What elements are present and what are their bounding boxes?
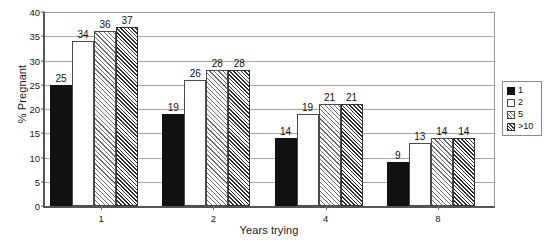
legend-label-series-5: 5 xyxy=(518,110,523,119)
bar-value-label: 14 xyxy=(280,126,291,137)
bar-series->10-category-8[interactable]: 14 xyxy=(453,138,475,206)
bar-series->10-category-2[interactable]: 28 xyxy=(228,70,250,206)
x-axis-tick-mark xyxy=(213,206,214,210)
y-axis-tick-mark xyxy=(41,133,45,134)
bar-series->10-category-4[interactable]: 21 xyxy=(341,104,363,206)
bar-series-5-category-2[interactable]: 28 xyxy=(206,70,228,206)
bar-value-label: 14 xyxy=(458,126,469,137)
bar-value-label: 37 xyxy=(122,15,133,26)
bar-value-label: 14 xyxy=(436,126,447,137)
bar-value-label: 21 xyxy=(346,92,357,103)
legend-swatch-icon-series-1 xyxy=(507,87,515,95)
bar-series-1-category-2[interactable]: 19 xyxy=(162,114,184,206)
bar-series-2-category-4[interactable]: 19 xyxy=(297,114,319,206)
legend-label-series-2: 2 xyxy=(518,98,523,107)
bar-value-label: 28 xyxy=(212,58,223,69)
x-axis-tick-mark xyxy=(101,206,102,210)
bar-value-label: 28 xyxy=(234,58,245,69)
legend-label-series-gt10: >10 xyxy=(518,122,533,131)
bar-series->10-category-1[interactable]: 37 xyxy=(116,27,138,206)
x-axis-tick-label: 4 xyxy=(323,213,328,224)
bar-value-label: 21 xyxy=(324,92,335,103)
legend-swatch-icon-series-5 xyxy=(507,111,515,119)
y-axis-tick-label: 35 xyxy=(10,31,40,42)
y-axis-tick-label: 25 xyxy=(10,79,40,90)
x-axis-title: Years trying xyxy=(43,224,495,236)
y-axis-tick-label: 10 xyxy=(10,152,40,163)
y-axis-tick-mark xyxy=(41,12,45,13)
y-axis-tick-label: 5 xyxy=(10,176,40,187)
legend-swatch-icon-series-2 xyxy=(507,99,515,107)
bar-value-label: 19 xyxy=(302,102,313,113)
bar-value-label: 25 xyxy=(56,73,67,84)
y-axis-tick-label: 20 xyxy=(10,104,40,115)
y-axis-tick-mark xyxy=(41,84,45,85)
bar-series-1-category-1[interactable]: 25 xyxy=(50,85,72,206)
plot-area: 0510152025303540125343637219262828414192… xyxy=(43,12,495,208)
bar-series-1-category-4[interactable]: 14 xyxy=(275,138,297,206)
bar-value-label: 9 xyxy=(395,150,401,161)
y-axis-tick-mark xyxy=(41,109,45,110)
x-axis-tick-mark xyxy=(326,206,327,210)
legend-item-series-2[interactable]: 2 xyxy=(507,97,538,108)
legend-label-series-1: 1 xyxy=(518,86,523,95)
gridline xyxy=(45,12,494,13)
bar-value-label: 34 xyxy=(78,29,89,40)
bar-series-5-category-1[interactable]: 36 xyxy=(94,31,116,206)
bar-series-2-category-1[interactable]: 34 xyxy=(72,41,94,206)
y-axis-tick-mark xyxy=(41,181,45,182)
y-axis-tick-label: 15 xyxy=(10,128,40,139)
chart-legend: 1 2 5 >10 xyxy=(502,81,542,136)
bar-value-label: 36 xyxy=(100,19,111,30)
legend-item-series-gt10[interactable]: >10 xyxy=(507,121,538,132)
bar-series-2-category-8[interactable]: 13 xyxy=(409,143,431,206)
bar-chart: % Pregnant 05101520253035401253436372192… xyxy=(0,0,550,244)
bar-value-label: 26 xyxy=(190,68,201,79)
bar-series-5-category-4[interactable]: 21 xyxy=(319,104,341,206)
y-axis-tick-mark xyxy=(41,36,45,37)
x-axis-tick-label: 2 xyxy=(211,213,216,224)
y-axis-tick-mark xyxy=(41,157,45,158)
y-axis-tick-label: 30 xyxy=(10,55,40,66)
y-axis-tick-label: 40 xyxy=(10,7,40,18)
bar-value-label: 13 xyxy=(414,131,425,142)
x-axis-tick-mark xyxy=(438,206,439,210)
legend-item-series-5[interactable]: 5 xyxy=(507,109,538,120)
bar-series-2-category-2[interactable]: 26 xyxy=(184,80,206,206)
bar-value-label: 19 xyxy=(168,102,179,113)
y-axis-tick-mark xyxy=(41,60,45,61)
x-axis-tick-label: 8 xyxy=(435,213,440,224)
y-axis-tick-mark xyxy=(41,206,45,207)
bar-series-1-category-8[interactable]: 9 xyxy=(387,162,409,206)
x-axis-tick-label: 1 xyxy=(98,213,103,224)
legend-swatch-icon-series-gt10 xyxy=(507,123,515,131)
bar-series-5-category-8[interactable]: 14 xyxy=(431,138,453,206)
y-axis-tick-label: 0 xyxy=(10,201,40,212)
legend-item-series-1[interactable]: 1 xyxy=(507,85,538,96)
